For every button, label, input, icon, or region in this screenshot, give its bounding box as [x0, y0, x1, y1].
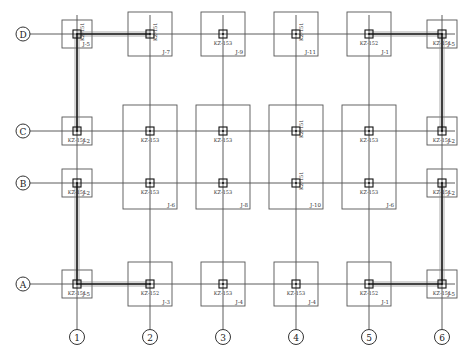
axis-label-row: C — [20, 127, 27, 137]
footing-label: J-11 — [304, 49, 316, 56]
column-label: KZ-153 — [214, 189, 232, 195]
axis-label-col: 5 — [366, 333, 372, 343]
column-label: KZ-151 — [298, 120, 304, 138]
column-center-dot — [76, 130, 78, 132]
footing-label: J-9 — [234, 49, 243, 56]
column-label: KZ-152 — [360, 290, 378, 296]
axis-label-col: 4 — [293, 333, 299, 343]
column-label: KZ-151 — [298, 23, 304, 41]
axis-label-col: 3 — [220, 333, 226, 343]
column-label: KZ-151 — [68, 189, 86, 195]
column-center-dot — [295, 33, 297, 35]
footing-label: J-1 — [380, 299, 389, 306]
column-label: KZ-153 — [287, 290, 305, 296]
column-label: KZ-151 — [79, 23, 85, 41]
column-center-dot — [368, 130, 370, 132]
footing-label: J-4 — [234, 299, 243, 306]
column-center-dot — [76, 182, 78, 184]
column-center-dot — [295, 283, 297, 285]
column-label: KZ-153 — [214, 137, 232, 143]
column-label: KZ-153 — [214, 290, 232, 296]
column-label: KZ-151 — [152, 23, 158, 41]
column-center-dot — [76, 283, 78, 285]
column-center-dot — [222, 33, 224, 35]
column-center-dot — [76, 33, 78, 35]
tie-beams — [75, 32, 444, 286]
column-center-dot — [222, 182, 224, 184]
axis-label-row: A — [19, 280, 27, 290]
footing-label: J-7 — [161, 49, 170, 56]
column-label: KZ-153 — [214, 40, 232, 46]
column-label: KZ-151 — [68, 137, 86, 143]
column-center-dot — [441, 283, 443, 285]
footing-label: J-6 — [166, 202, 175, 209]
column-label: KZ-153 — [141, 137, 159, 143]
column-center-dot — [441, 33, 443, 35]
column-label: KZ-151 — [433, 137, 451, 143]
column-center-dot — [295, 182, 297, 184]
column-label: KZ-151 — [433, 290, 451, 296]
column-label: KZ-151 — [433, 189, 451, 195]
column-center-dot — [149, 130, 151, 132]
column-label: KZ-151 — [68, 290, 86, 296]
column-label: KZ-151 — [433, 40, 451, 46]
column-center-dot — [368, 182, 370, 184]
column-label: KZ-153 — [360, 137, 378, 143]
footing-label: J-10 — [309, 202, 322, 209]
column-label: KZ-153 — [141, 189, 159, 195]
footing-label: J-6 — [385, 202, 394, 209]
footings: J-5J-7J-9J-11J-1J-5J-2J-2J-2J-2J-5J-3J-4… — [62, 12, 457, 306]
column-center-dot — [441, 182, 443, 184]
column-label: KZ-152 — [360, 40, 378, 46]
axis-label-row: D — [19, 30, 26, 40]
columns: KZ-151KZ-151KZ-153KZ-151KZ-152KZ-151KZ-1… — [68, 23, 451, 296]
column-center-dot — [368, 33, 370, 35]
column-center-dot — [368, 283, 370, 285]
footing-label: J-3 — [161, 299, 170, 306]
footing-label: J-5 — [81, 41, 90, 48]
column-center-dot — [149, 182, 151, 184]
foundation-plan: J-5J-7J-9J-11J-1J-5J-2J-2J-2J-2J-5J-3J-4… — [0, 0, 468, 360]
column-label: KZ-151 — [298, 172, 304, 190]
footing-label: J-8 — [239, 202, 248, 209]
axis-label-row: B — [20, 179, 27, 189]
column-center-dot — [149, 283, 151, 285]
footing-label: J-1 — [380, 49, 389, 56]
footing-label: J-4 — [307, 299, 316, 306]
column-center-dot — [441, 130, 443, 132]
column-center-dot — [149, 33, 151, 35]
column-center-dot — [222, 283, 224, 285]
axis-label-col: 6 — [439, 333, 445, 343]
column-label: KZ-153 — [360, 189, 378, 195]
column-center-dot — [222, 130, 224, 132]
axis-label-col: 2 — [147, 333, 153, 343]
axis-label-col: 1 — [74, 333, 80, 343]
column-center-dot — [295, 130, 297, 132]
column-label: KZ-152 — [141, 290, 159, 296]
